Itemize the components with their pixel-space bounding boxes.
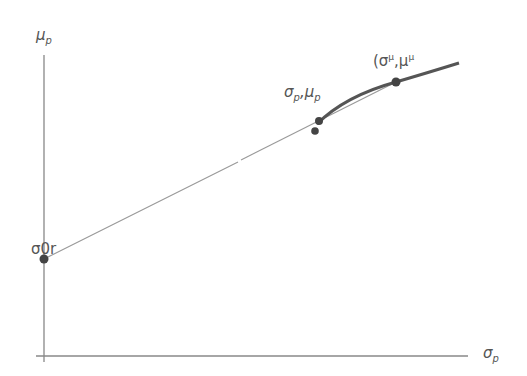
y-axis-label: μp xyxy=(36,26,52,46)
tangency-point xyxy=(392,78,401,87)
portfolio-label: σp,μp xyxy=(284,83,321,103)
capital-market-line xyxy=(44,162,238,259)
diagram-canvas xyxy=(0,0,527,376)
risk-free-label: σ0, r xyxy=(31,240,56,258)
efficient-frontier-curve xyxy=(317,63,459,124)
x-axis-label: σp xyxy=(483,344,499,364)
portfolio-point-lower xyxy=(311,127,319,135)
portfolio-point xyxy=(315,117,323,125)
tangency-label: (σμ,μμ xyxy=(373,52,414,70)
